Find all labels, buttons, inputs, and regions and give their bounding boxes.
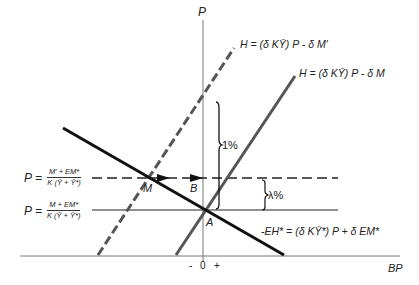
arrow-icon — [157, 174, 170, 182]
point-m-label: M — [143, 182, 152, 194]
x-tick-minus: - — [189, 260, 192, 271]
lower-level-formula: P = M + EM* K (Ȳ + Ȳ*) — [24, 200, 80, 221]
upper-level-numerator: M′ + EM* — [47, 167, 81, 178]
point-b-label: B — [190, 182, 197, 194]
lower-level-p: P = — [24, 204, 42, 218]
lower-level-denominator: K (Ȳ + Ȳ*) — [47, 211, 81, 221]
h-dashed-line — [98, 48, 234, 255]
one-pct-label: 1% — [222, 139, 238, 151]
eh-equation: -EH* = (δ KȲ*) P + δ EM* — [261, 225, 379, 237]
x-tick-zero: 0 — [200, 260, 206, 271]
upper-level-p: P = — [24, 171, 42, 185]
diagram-canvas — [0, 0, 419, 285]
h-dashed-equation: H = (δ KȲ) P - δ M′ — [240, 38, 328, 50]
lower-level-numerator: M + EM* — [47, 200, 80, 211]
y-axis-label: P — [198, 5, 206, 19]
upper-level-formula: P = M′ + EM* K (Ȳ + Ȳ*) — [24, 167, 81, 188]
h-solid-equation: H = (δ KȲ) P - δ M — [299, 67, 385, 79]
eh-line — [63, 128, 284, 255]
arrow-icon — [190, 174, 203, 182]
lambda-pct-label: λ% — [268, 189, 283, 201]
x-tick-plus: + — [214, 260, 220, 271]
x-axis-label: BP — [388, 262, 403, 274]
upper-level-denominator: K (Ȳ + Ȳ*) — [47, 178, 81, 188]
point-a-label: A — [206, 216, 213, 228]
